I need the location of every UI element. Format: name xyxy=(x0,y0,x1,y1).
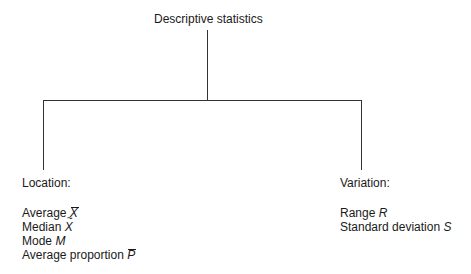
item-label: Standard deviation xyxy=(340,220,440,234)
item-label: Average proportion xyxy=(22,248,124,262)
m-symbol: M xyxy=(55,234,65,248)
list-item-average-proportion: Average proportion P xyxy=(22,248,135,262)
item-label: Mode xyxy=(22,234,52,248)
list-item-range: Range R xyxy=(340,206,387,220)
connector-root-stem xyxy=(207,30,208,101)
list-item-median: Median X xyxy=(22,220,73,234)
connector-right-branch xyxy=(361,100,362,170)
branch-heading-variation: Variation: xyxy=(340,176,390,190)
list-item-standard-deviation: Standard deviation S xyxy=(340,220,451,234)
item-label: Range xyxy=(340,206,375,220)
root-node-label: Descriptive statistics xyxy=(154,12,263,26)
item-label: Average xyxy=(22,206,66,220)
list-item-mode: Mode M xyxy=(22,234,65,248)
s-symbol: S xyxy=(443,220,451,234)
item-label: Median xyxy=(22,220,61,234)
connector-left-branch xyxy=(43,100,44,170)
branch-heading-location: Location: xyxy=(22,176,71,190)
r-symbol: R xyxy=(379,206,388,220)
p-bar-symbol: P xyxy=(127,248,135,262)
x-tilde-symbol: X xyxy=(65,220,73,234)
connector-horizontal xyxy=(43,100,362,101)
